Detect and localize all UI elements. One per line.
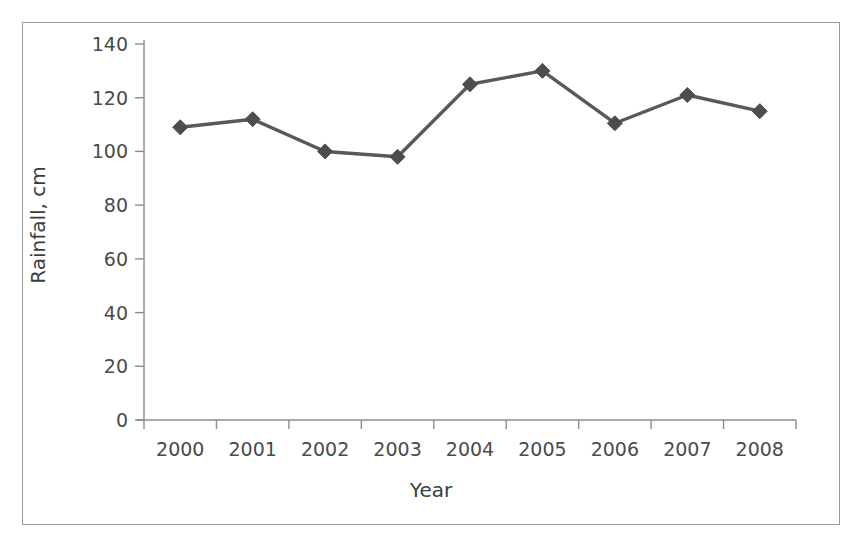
- x-axis-tick-label: 2004: [446, 438, 494, 460]
- y-axis-title: Rainfall, cm: [26, 145, 50, 305]
- y-axis-tick-label: 120: [92, 87, 128, 109]
- y-axis-tick-label: 100: [92, 140, 128, 162]
- y-axis-tick-label: 60: [104, 248, 128, 270]
- x-axis-tick-label: 2008: [736, 438, 784, 460]
- rainfall-line-chart: 020406080100120140 200020012002200320042…: [0, 0, 862, 549]
- y-axis-tick-label: 20: [104, 355, 128, 377]
- chart-outer-border: [22, 22, 840, 525]
- x-axis-tick-label: 2001: [228, 438, 276, 460]
- x-axis-tick-label: 2002: [301, 438, 349, 460]
- x-axis-title: Year: [0, 478, 862, 502]
- y-axis-tick-label: 140: [92, 33, 128, 55]
- y-axis-tick-label: 80: [104, 194, 128, 216]
- y-axis-tick-label: 0: [116, 409, 128, 431]
- x-axis-tick-label: 2006: [591, 438, 639, 460]
- x-axis-tick-label: 2000: [156, 438, 204, 460]
- x-axis-tick-label: 2003: [373, 438, 421, 460]
- x-axis-tick-label: 2005: [518, 438, 566, 460]
- y-axis-tick-label: 40: [104, 302, 128, 324]
- x-axis-tick-label: 2007: [663, 438, 711, 460]
